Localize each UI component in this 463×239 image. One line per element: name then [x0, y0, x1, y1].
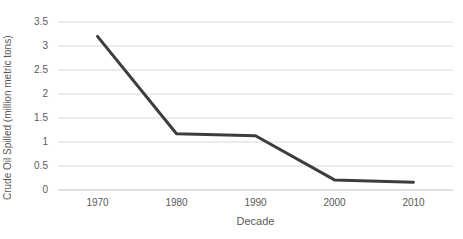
x-tick-label: 1980 [147, 197, 207, 209]
x-tick-label: 1990 [226, 197, 286, 209]
y-tick-label: 2 [0, 88, 48, 100]
x-tick-label: 1970 [68, 197, 128, 209]
x-tick-label: 2000 [305, 197, 365, 209]
gridlines [58, 22, 453, 190]
y-tick-label: 1 [0, 136, 48, 148]
x-tick-label: 2010 [384, 197, 444, 209]
y-tick-label: 1.5 [0, 112, 48, 124]
y-tick-label: 0 [0, 184, 48, 196]
x-axis-title: Decade [205, 215, 306, 227]
line-chart: Crude Oil Spilled (million metric tons) … [0, 0, 463, 239]
y-tick-label: 0.5 [0, 160, 48, 172]
data-series-line [98, 36, 414, 182]
y-tick-label: 3 [0, 40, 48, 52]
y-tick-label: 2.5 [0, 64, 48, 76]
y-tick-label: 3.5 [0, 16, 48, 28]
